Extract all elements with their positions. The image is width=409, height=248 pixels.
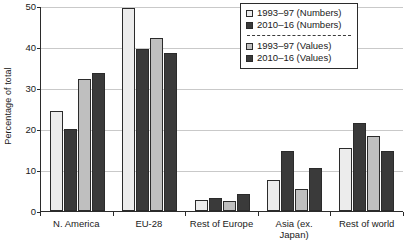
dark-swatch-icon: [246, 22, 253, 29]
y-axis-tick-label: 40: [14, 43, 36, 53]
bar[interactable]: [381, 151, 394, 211]
bar[interactable]: [237, 194, 250, 211]
y-axis-title-label: Percentage of total: [3, 67, 13, 144]
light-swatch-icon: [246, 10, 253, 17]
x-axis-category-label-line: N. America: [40, 218, 113, 229]
x-axis-category-label-line: Rest of Europe: [185, 218, 258, 229]
x-axis-tick-mark: [113, 212, 114, 216]
x-axis-tick-mark: [185, 212, 186, 216]
bar-group: [113, 7, 185, 211]
x-axis-tick-mark: [403, 212, 404, 216]
bar[interactable]: [122, 8, 135, 211]
x-axis-category-label-line: Japan): [258, 229, 331, 240]
x-axis-category-label: EU-28: [113, 218, 186, 248]
legend-item-label: 1993–97 (Numbers): [257, 8, 342, 18]
legend-item-label: 2010–16 (Numbers): [257, 20, 342, 30]
bar-chart: Percentage of total 01020304050 N. Ameri…: [0, 0, 409, 248]
x-axis-tick-mark: [330, 212, 331, 216]
bar[interactable]: [339, 148, 352, 211]
x-axis-category-label: Rest of world: [330, 218, 403, 248]
bar[interactable]: [295, 189, 308, 211]
legend-item-label: 1993–97 (Values): [257, 41, 331, 51]
bar[interactable]: [50, 111, 63, 211]
chart-legend: 1993–97 (Numbers)2010–16 (Numbers)1993–9…: [240, 3, 358, 69]
dark-swatch-icon: [246, 55, 253, 62]
bar[interactable]: [309, 168, 322, 211]
legend-item[interactable]: 1993–97 (Values): [246, 40, 351, 52]
y-axis-tick-label: 10: [14, 166, 36, 176]
legend-item[interactable]: 1993–97 (Numbers): [246, 7, 351, 19]
bar[interactable]: [281, 151, 294, 211]
legend-item-label: 2010–16 (Values): [257, 53, 331, 63]
legend-item[interactable]: 2010–16 (Values): [246, 52, 351, 64]
x-axis-category-label-line: Asia (ex.: [258, 218, 331, 229]
bar[interactable]: [353, 123, 366, 211]
y-axis-tick-label: 20: [14, 125, 36, 135]
bar[interactable]: [64, 129, 77, 211]
x-axis-category-label: Rest of Europe: [185, 218, 258, 248]
bar[interactable]: [367, 136, 380, 211]
y-axis-tick-label: 0: [14, 207, 36, 217]
bar[interactable]: [150, 38, 163, 211]
x-axis-category-label: Asia (ex.Japan): [258, 218, 331, 248]
x-axis-category-label-line: Rest of world: [330, 218, 403, 229]
legend-separator: [246, 31, 351, 40]
bar[interactable]: [267, 180, 280, 211]
legend-item[interactable]: 2010–16 (Numbers): [246, 19, 351, 31]
bar[interactable]: [223, 201, 236, 211]
y-axis-tick-label: 30: [14, 84, 36, 94]
x-axis-ticks: [40, 212, 403, 217]
y-axis-tick-labels: 01020304050: [14, 0, 36, 220]
bar[interactable]: [92, 73, 105, 211]
x-axis-tick-mark: [40, 212, 41, 216]
legend-separator-line: [247, 35, 351, 36]
bar[interactable]: [136, 49, 149, 211]
y-axis-tick-label: 50: [14, 2, 36, 12]
bar[interactable]: [78, 79, 91, 211]
bar[interactable]: [195, 200, 208, 211]
x-axis-category-label-line: EU-28: [113, 218, 186, 229]
bar-group: [41, 7, 113, 211]
medium-swatch-icon: [246, 43, 253, 50]
x-axis-tick-mark: [258, 212, 259, 216]
x-axis-labels: N. AmericaEU-28Rest of EuropeAsia (ex.Ja…: [40, 218, 403, 248]
bar[interactable]: [209, 198, 222, 211]
x-axis-category-label: N. America: [40, 218, 113, 248]
bar[interactable]: [164, 53, 177, 211]
